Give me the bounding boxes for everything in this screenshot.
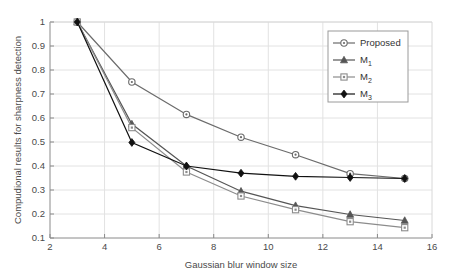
chart-canvas: 0.10.20.30.40.50.60.70.80.91 24681012141… — [0, 0, 451, 276]
data-point — [238, 193, 244, 199]
y-tick-label: 0.1 — [32, 232, 45, 243]
data-point — [238, 134, 244, 140]
x-tick-label: 2 — [47, 241, 52, 252]
data-point — [129, 79, 135, 85]
data-point — [402, 225, 408, 231]
y-tick-label: 0.8 — [32, 64, 45, 75]
x-tick-label: 16 — [427, 241, 438, 252]
x-tick-label: 12 — [318, 241, 329, 252]
legend-label: M — [360, 54, 368, 65]
x-axis-title: Gaussian blur window size — [185, 259, 297, 270]
y-tick-label: 0.4 — [32, 160, 45, 171]
legend-label: M — [360, 71, 368, 82]
data-point — [292, 207, 298, 213]
legend-label: M — [360, 88, 368, 99]
data-point — [292, 152, 298, 158]
x-tick-labels: 246810121416 — [47, 241, 437, 252]
data-point — [341, 74, 347, 80]
legend-label-subscript: 2 — [368, 77, 372, 84]
data-point — [129, 125, 135, 131]
y-tick-label: 0.6 — [32, 112, 45, 123]
x-tick-label: 4 — [102, 241, 107, 252]
y-tick-label: 1 — [40, 16, 45, 27]
y-tick-label: 0.3 — [32, 184, 45, 195]
x-tick-label: 14 — [372, 241, 383, 252]
y-tick-label: 0.9 — [32, 40, 45, 51]
legend[interactable]: ProposedM1M2M3 — [328, 31, 408, 102]
x-tick-label: 8 — [211, 241, 216, 252]
legend-label-subscript: 1 — [368, 60, 372, 67]
data-point — [183, 111, 189, 117]
y-tick-labels: 0.10.20.30.40.50.60.70.80.91 — [32, 16, 45, 243]
data-point — [347, 219, 353, 225]
y-tick-label: 0.7 — [32, 88, 45, 99]
data-point — [341, 40, 347, 46]
legend-label: Proposed — [360, 37, 401, 48]
y-tick-label: 0.5 — [32, 136, 45, 147]
legend-label-subscript: 3 — [368, 94, 372, 101]
x-tick-label: 6 — [156, 241, 161, 252]
figure-container: 0.10.20.30.40.50.60.70.80.91 24681012141… — [0, 0, 451, 276]
x-tick-label: 10 — [263, 241, 274, 252]
y-tick-label: 0.2 — [32, 208, 45, 219]
y-axis-title: Compudional results for sharpness detect… — [12, 36, 23, 224]
